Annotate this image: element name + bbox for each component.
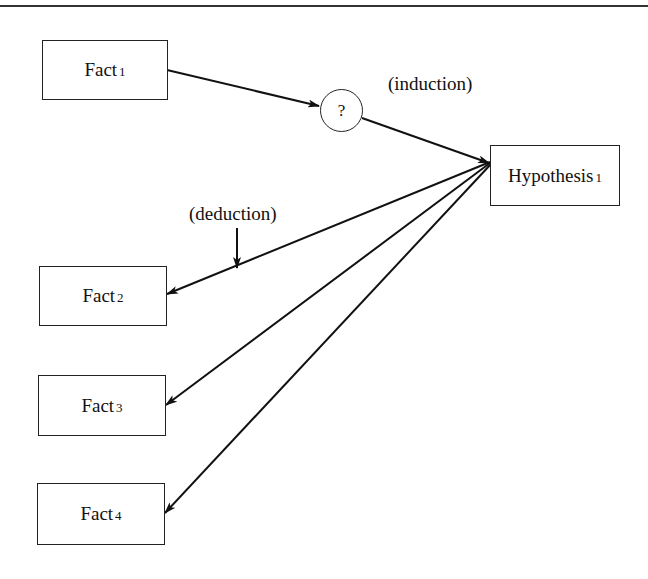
arrow-hypothesis-to-fact3 [166,163,490,405]
fact3-label: Fact [81,395,114,417]
induction-label: (induction) [388,73,472,95]
unknown-step-circle: ? [320,89,363,132]
question-mark: ? [338,101,346,121]
hypothesis-label: Hypothesis [508,165,594,187]
fact1-label: Fact [84,59,117,81]
hypothesis-box: Hypothesis1 [490,145,620,206]
fact2-box: Fact2 [39,266,167,326]
fact3-box: Fact3 [38,375,166,436]
deduction-label: (deduction) [189,203,277,225]
arrow-fact1-to-question [167,70,319,106]
fact2-label: Fact [82,285,115,307]
fact1-box: Fact1 [42,40,168,100]
arrow-hypothesis-to-fact2 [167,162,490,294]
arrow-question-to-hypothesis [362,118,489,163]
fact4-label: Fact [80,503,113,525]
fact4-box: Fact4 [37,483,165,545]
